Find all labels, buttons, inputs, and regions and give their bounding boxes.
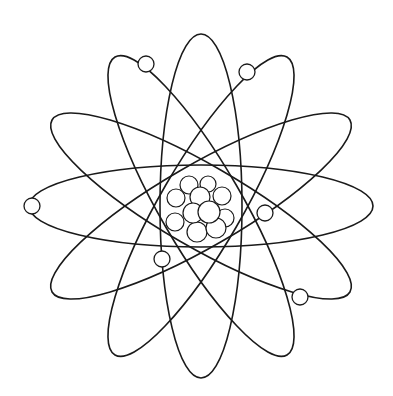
electron [154, 251, 170, 267]
electron [257, 205, 273, 221]
nucleon [187, 222, 207, 242]
nucleus [166, 176, 234, 242]
electron [24, 198, 40, 214]
nucleon [198, 201, 220, 223]
electron [138, 56, 154, 72]
electron [292, 289, 308, 305]
atom-diagram [0, 0, 393, 396]
nucleon [213, 187, 231, 205]
nucleon [167, 189, 185, 207]
nucleon [166, 213, 184, 231]
electron [239, 64, 255, 80]
